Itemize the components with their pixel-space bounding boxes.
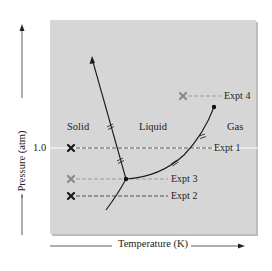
expt1-label: Expt 1 xyxy=(214,143,240,153)
expt3-x-marker xyxy=(68,176,74,182)
expt4-label: Expt 4 xyxy=(224,91,250,101)
y-tick-one-atm: 1.0 xyxy=(33,143,46,153)
x-axis-label: Temperature (K) xyxy=(115,238,191,249)
critical-point-dot xyxy=(212,105,216,109)
triple-point-dot xyxy=(124,177,128,181)
y-axis-label-text: Pressure (atm) xyxy=(16,128,27,195)
y-axis-label: Pressure (atm) xyxy=(6,86,36,236)
expt4-x-marker xyxy=(180,93,186,99)
solid-region-label: Solid xyxy=(67,122,89,132)
liquid-region-label: Liquid xyxy=(139,122,167,132)
gas-region-label: Gas xyxy=(227,122,243,132)
sublimation-curve xyxy=(106,179,126,210)
expt2-label: Expt 2 xyxy=(171,191,197,201)
fusion-curve xyxy=(90,56,126,179)
vaporization-curve xyxy=(126,107,214,179)
expt2-x-marker xyxy=(68,193,74,199)
expt3-label: Expt 3 xyxy=(171,174,197,184)
phase-diagram xyxy=(0,0,272,271)
